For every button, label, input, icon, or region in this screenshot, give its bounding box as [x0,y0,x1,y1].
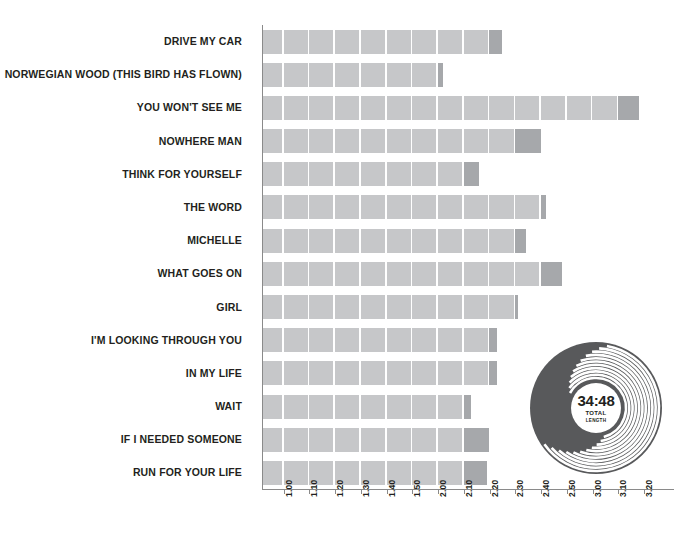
bar-segment [284,195,308,219]
bar[interactable] [263,195,546,219]
x-axis-tick: 2.30 [515,490,516,494]
bar-segment [438,195,462,219]
x-axis-tick: 1.40 [387,490,388,494]
bar-row [263,125,682,158]
bar[interactable] [263,229,526,253]
bar[interactable] [263,361,497,385]
bar-segment [335,229,359,253]
bar[interactable] [263,162,479,186]
bar-segment [464,361,488,385]
bar-segment-partial [515,129,541,153]
x-axis-tick: 2.40 [541,490,542,494]
bar-segment [387,328,411,352]
bar-segment [489,195,513,219]
bar-segment [263,395,282,419]
bar-segment [412,30,436,54]
bar-segment [263,428,282,452]
bar-segment [309,63,333,87]
x-axis-tick-label: 3.20 [644,480,654,497]
x-axis-tick-label: 1.40 [387,480,397,497]
x-axis-ticks: 1.001.101.201.301.401.502.002.102.202.30… [262,490,682,537]
x-axis-tick-label: 1.30 [361,480,371,497]
bar-segment [361,96,385,120]
bar-row [263,58,682,91]
bar-segment [284,229,308,253]
bar-segment [335,328,359,352]
bar-segment [515,195,539,219]
bar-segment [361,295,385,319]
x-axis-tick: 1.50 [412,490,413,494]
bar-segment [515,262,539,286]
bar[interactable] [263,295,518,319]
bar-segment [335,162,359,186]
bar-segment [489,96,513,120]
track-label-column: DRIVE MY CARNORWEGIAN WOOD (THIS BIRD HA… [0,25,252,490]
bar-segment [309,30,333,54]
bar-segment [284,361,308,385]
bar-segment [412,395,436,419]
bar-segment [567,96,591,120]
bar-segment [438,262,462,286]
bar-segment [284,395,308,419]
bar[interactable] [263,30,502,54]
bar-segment [263,229,282,253]
x-axis-tick: 2.10 [464,490,465,494]
bar-segment [412,63,436,87]
bar-row [263,257,682,290]
bar-segment [412,328,436,352]
bar-segment [309,262,333,286]
bar-segment [309,229,333,253]
bar-segment [438,428,462,452]
bar-segment [361,195,385,219]
bar[interactable] [263,461,487,485]
x-axis-tick: 1.00 [284,490,285,494]
bar-segment [387,229,411,253]
bar[interactable] [263,428,489,452]
bar-segment [515,96,539,120]
bar-segment [412,295,436,319]
bar-segment [309,162,333,186]
bar-segment [361,395,385,419]
bar[interactable] [263,395,471,419]
bar-segment [263,162,282,186]
track-label: RUN FOR YOUR LIFE [0,456,252,489]
x-axis-tick-label: 3.10 [618,480,628,497]
bar-segment [361,162,385,186]
vinyl-record-svg [529,341,663,475]
bar-segment [412,229,436,253]
bar-segment [309,361,333,385]
x-axis-tick-label: 1.50 [412,480,422,497]
bar-segment [387,30,411,54]
bar-segment [464,262,488,286]
bar[interactable] [263,328,497,352]
bar-segment [438,96,462,120]
track-label: IF I NEEDED SOMEONE [0,423,252,456]
track-label: MICHELLE [0,224,252,257]
bar[interactable] [263,96,639,120]
bar-row [263,25,682,58]
x-axis-tick-label: 1.00 [284,480,294,497]
bar-segment [361,328,385,352]
bar-segment-partial [489,361,497,385]
track-label: THE WORD [0,191,252,224]
bar-segment [335,295,359,319]
bar-segment-partial [618,96,639,120]
bar-segment [263,461,282,485]
bar-segment [309,295,333,319]
bar-segment [335,63,359,87]
bar[interactable] [263,63,443,87]
track-label: NORWEGIAN WOOD (THIS BIRD HAS FLOWN) [0,58,252,91]
bar-segment [263,129,282,153]
bar[interactable] [263,129,541,153]
track-label: THINK FOR YOURSELF [0,158,252,191]
bar-segment [263,262,282,286]
bar-segment-partial [464,395,472,419]
bar-segment [464,328,488,352]
x-axis-tick-label: 1.20 [335,480,345,497]
bar-segment [263,195,282,219]
bar-row [263,224,682,257]
bar[interactable] [263,262,562,286]
bar-segment [309,428,333,452]
bar-segment [489,295,513,319]
bar-segment [361,361,385,385]
